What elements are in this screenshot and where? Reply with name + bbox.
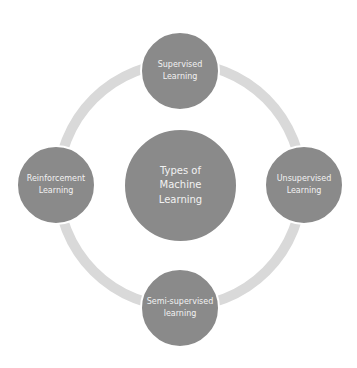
node-semi-supervised: Semi-supervised learning — [140, 268, 220, 348]
node-label: Supervised Learning — [158, 59, 203, 82]
node-unsupervised: Unsupervised Learning — [264, 145, 344, 225]
node-label: Semi-supervised learning — [147, 296, 214, 319]
center-node: Types of Machine Learning — [123, 128, 238, 243]
node-label: Unsupervised Learning — [277, 173, 332, 196]
center-label: Types of Machine Learning — [159, 164, 202, 208]
node-supervised: Supervised Learning — [140, 31, 220, 111]
node-reinforcement: Reinforcement Learning — [16, 145, 96, 225]
node-label: Reinforcement Learning — [27, 173, 85, 196]
